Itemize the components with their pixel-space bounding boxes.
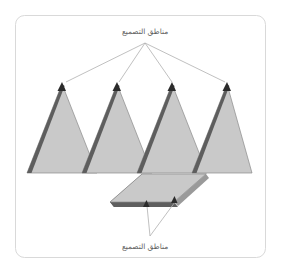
bottom-label: مناطق التصميع: [122, 242, 168, 251]
top-label: مناطق التصميع: [122, 27, 168, 36]
manufacturing-zones-diagram: مناطق التصميع مناطق التصميع: [0, 0, 291, 279]
figure-container: مناطق التصميع مناطق التصميع: [0, 0, 291, 279]
